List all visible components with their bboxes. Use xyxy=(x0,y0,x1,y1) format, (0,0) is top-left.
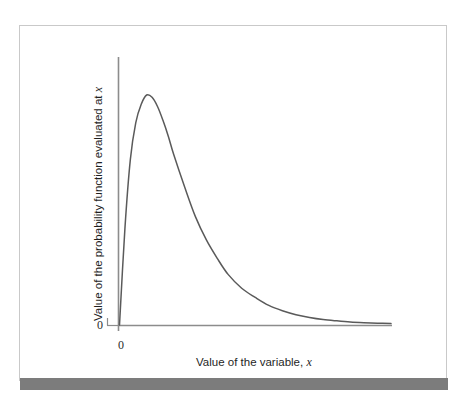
y-axis-title: Value of the probability function evalua… xyxy=(92,87,105,321)
y-axis-title-variable: x xyxy=(91,87,105,92)
x-axis-title-variable: x xyxy=(306,355,311,369)
density-curve xyxy=(120,95,392,325)
figure-root: 0 0 Value of the probability function ev… xyxy=(0,0,463,405)
plot-area: 0 0 Value of the probability function ev… xyxy=(0,0,463,405)
footer-rule xyxy=(20,378,448,390)
plot-canvas xyxy=(0,0,463,405)
x-axis-title-text: Value of the variable, xyxy=(196,356,306,368)
x-axis-title: Value of the variable, x xyxy=(196,356,312,369)
y-axis-title-text: Value of the probability function evalua… xyxy=(92,92,104,321)
x-axis-zero-label: 0 xyxy=(118,339,124,351)
